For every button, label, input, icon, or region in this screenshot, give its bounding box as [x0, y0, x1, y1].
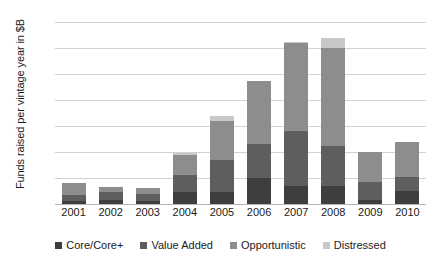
x-tick-label: 2006 [239, 206, 279, 218]
bar-segment [395, 142, 419, 177]
bar-segment [136, 201, 160, 204]
bar-segment [62, 201, 86, 204]
plot-area [55, 22, 426, 204]
legend-swatch-icon [55, 242, 62, 249]
legend-label: Distressed [334, 239, 386, 251]
legend-item[interactable]: Opportunistic [230, 239, 306, 251]
x-tick-label: 2004 [165, 206, 205, 218]
x-tick-label: 2005 [202, 206, 242, 218]
gridline [55, 74, 426, 75]
bar-segment [210, 160, 234, 193]
x-tick-label: 2001 [54, 206, 94, 218]
legend-label: Core/Core+ [66, 239, 123, 251]
x-tick-label: 2008 [313, 206, 353, 218]
legend-item[interactable]: Value Added [140, 239, 213, 251]
x-axis-tick-labels: 2001200220032004200520062007200820092010 [55, 206, 426, 224]
legend-item[interactable]: Core/Core+ [55, 239, 123, 251]
bar-stack [358, 152, 382, 204]
bar-stack [62, 183, 86, 204]
legend-item[interactable]: Distressed [323, 239, 386, 251]
gridline [55, 204, 426, 205]
y-axis-tick-labels: 020406080100120140 [0, 22, 50, 204]
bar-stack [247, 81, 271, 204]
bar-segment [99, 200, 123, 204]
bar-segment [247, 144, 271, 178]
legend-swatch-icon [140, 242, 147, 249]
gridline [55, 22, 426, 23]
x-tick-label: 2010 [387, 206, 427, 218]
gridline [55, 100, 426, 101]
bar-segment [358, 200, 382, 204]
bar-stack [284, 42, 308, 204]
bar-segment [173, 175, 197, 192]
x-tick-label: 2009 [350, 206, 390, 218]
legend-label: Opportunistic [241, 239, 306, 251]
legend-swatch-icon [323, 242, 330, 249]
bar-segment [136, 194, 160, 202]
gridline [55, 126, 426, 127]
x-tick-label: 2002 [91, 206, 131, 218]
chart-legend: Core/Core+Value AddedOpportunisticDistre… [0, 236, 441, 254]
bar-segment [62, 183, 86, 195]
bar-segment [284, 43, 308, 131]
bar-segment [321, 38, 345, 48]
bar-stack [321, 38, 345, 204]
x-tick-label: 2007 [276, 206, 316, 218]
bar-segment [210, 121, 234, 160]
bar-segment [173, 192, 197, 204]
bar-segment [321, 186, 345, 204]
bar-segment [284, 186, 308, 204]
bar-segment [395, 191, 419, 204]
bar-segment [210, 192, 234, 204]
bar-segment [99, 192, 123, 200]
bar-segment [321, 48, 345, 146]
bar-stack [173, 153, 197, 204]
x-tick-label: 2003 [128, 206, 168, 218]
bar-segment [358, 152, 382, 182]
bar-stack [99, 187, 123, 204]
bar-segment [358, 182, 382, 200]
chart-figure: Funds raised per vintage year in $B 0204… [0, 0, 441, 265]
bar-segment [247, 178, 271, 204]
gridline [55, 48, 426, 49]
bar-stack [136, 188, 160, 204]
bar-segment [321, 146, 345, 186]
legend-label: Value Added [151, 239, 213, 251]
bar-segment [395, 177, 419, 191]
bar-segment [173, 155, 197, 176]
bar-stack [395, 142, 419, 204]
bar-stack [210, 116, 234, 204]
legend-swatch-icon [230, 242, 237, 249]
bar-segment [247, 81, 271, 145]
bar-segment [284, 131, 308, 186]
